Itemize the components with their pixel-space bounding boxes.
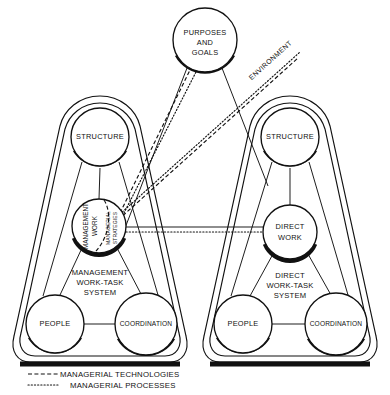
goals-link-left (125, 68, 187, 228)
left-center-node: MANAGEMENT WORK MANAGERIAL STRATEGIES (72, 199, 126, 255)
right-caption-line1: DIRECT (275, 271, 305, 280)
left-system-caption: MANAGEMENT WORK-TASK SYSTEM (72, 268, 129, 297)
right-center-label-line2: WORK (278, 233, 302, 242)
environment-label: ENVIRONMENT (248, 39, 294, 81)
right-center-label-line1: DIRECT (275, 222, 304, 231)
purposes-and-goals-node: PURPOSES AND GOALS (173, 8, 237, 72)
left-structure-label: STRUCTURE (76, 132, 124, 141)
legend-item-managerial-processes: MANAGERIAL PROCESSES (70, 381, 176, 390)
goals-link-right (222, 68, 268, 186)
inter-system-links (126, 227, 268, 232)
right-coordination-node: COORDINATION (305, 293, 367, 355)
left-people-node: PEOPLE (26, 295, 84, 353)
left-coordination-label: COORDINATION (120, 320, 173, 327)
right-caption-line2: WORK-TASK (266, 281, 313, 290)
left-people-label: PEOPLE (39, 319, 70, 328)
right-structure-node: STRUCTURE (261, 108, 319, 166)
right-center-node: DIRECT WORK (263, 205, 317, 261)
left-coordination-node: COORDINATION (115, 293, 177, 355)
left-center-label-secondary-line2: STRATEGIES (112, 211, 118, 244)
left-caption-line1: MANAGEMENT (72, 268, 129, 277)
purposes-goals-label-line2: AND (197, 38, 213, 47)
left-link-structure-center (99, 168, 100, 199)
purposes-goals-label-line3: GOALS (192, 48, 219, 57)
left-structure-node: STRUCTURE (71, 108, 129, 166)
left-caption-line2: WORK-TASK (76, 278, 123, 287)
purposes-goals-label-line1: PURPOSES (183, 28, 226, 37)
left-center-label-line1: MANAGEMENT (82, 203, 89, 249)
systems-diagram: ENVIRONMENT PURPOSES AND GOALS STRUCTURE… (0, 0, 390, 395)
goal-links (125, 68, 268, 228)
right-people-label: PEOPLE (227, 319, 258, 328)
tech-line-to-goals (120, 70, 190, 213)
left-center-label-secondary-line1: MANAGERIAL (105, 211, 111, 245)
diagram-canvas: ENVIRONMENT PURPOSES AND GOALS STRUCTURE… (0, 0, 390, 395)
right-system-caption: DIRECT WORK-TASK SYSTEM (266, 271, 313, 300)
right-people-node: PEOPLE (214, 295, 272, 353)
right-coordination-label: COORDINATION (310, 320, 363, 327)
right-caption-line3: SYSTEM (274, 291, 306, 300)
legend: MANAGERIAL TECHNOLOGIES MANAGERIAL PROCE… (28, 370, 179, 390)
legend-item-managerial-technologies: MANAGERIAL TECHNOLOGIES (60, 370, 179, 379)
right-structure-label: STRUCTURE (266, 132, 314, 141)
process-line-to-goals (124, 72, 196, 213)
left-caption-line3: SYSTEM (84, 288, 116, 297)
left-center-label-line2: WORK (91, 215, 98, 236)
environment-label-group: ENVIRONMENT (248, 39, 294, 81)
